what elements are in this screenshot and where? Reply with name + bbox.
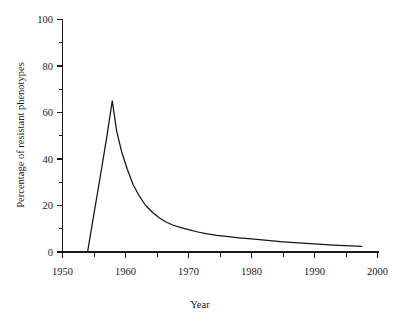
x-tick-label: 1950 — [52, 266, 73, 277]
y-axis-tick-labels: 100 80 60 40 20 0 — [37, 14, 53, 258]
chart-plot-area: 100 80 60 40 20 0 1950 1960 1970 1980 19… — [0, 0, 408, 328]
y-tick-label: 100 — [37, 14, 53, 25]
x-axis-tick-labels: 1950 1960 1970 1980 1990 2000 — [52, 266, 388, 277]
x-axis-title: Year — [190, 299, 210, 310]
x-tick-label: 1960 — [115, 266, 136, 277]
x-axis-minor-ticks — [94, 252, 346, 257]
y-tick-label: 40 — [43, 154, 54, 165]
chart-figure: 100 80 60 40 20 0 1950 1960 1970 1980 19… — [0, 0, 408, 328]
y-tick-label: 20 — [43, 200, 54, 211]
x-tick-label: 1990 — [304, 266, 325, 277]
y-tick-label: 60 — [43, 107, 54, 118]
data-series-line — [88, 101, 362, 251]
y-axis-title: Percentage of resistant phenotypes — [15, 62, 26, 208]
x-tick-label: 1980 — [241, 266, 262, 277]
y-axis-minor-ticks — [59, 43, 63, 229]
x-tick-label: 1970 — [178, 266, 199, 277]
y-tick-label: 80 — [43, 61, 54, 72]
y-tick-label: 0 — [48, 247, 53, 258]
x-tick-label: 2000 — [367, 266, 388, 277]
